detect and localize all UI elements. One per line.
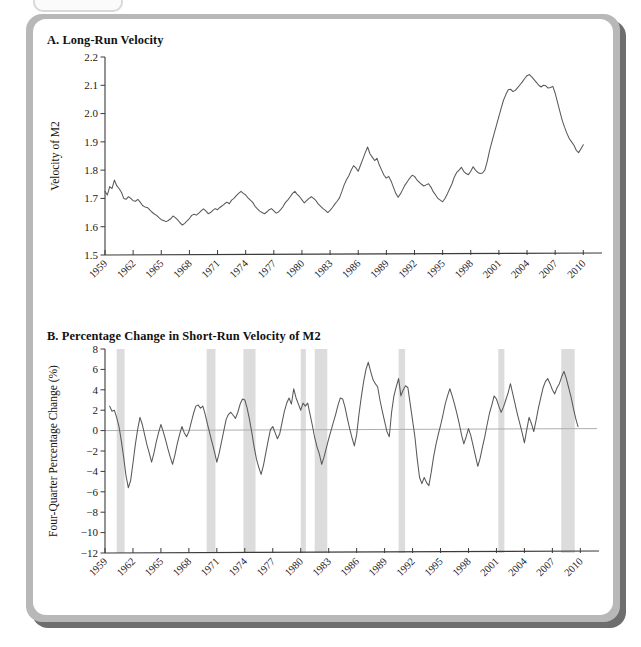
x-tick-label: 1959 xyxy=(87,258,110,281)
panel-b-percentage-change: B. Percentage Change in Short-Run Veloci… xyxy=(33,319,613,615)
x-tick-label: 2010 xyxy=(565,258,588,281)
recession-band xyxy=(301,349,306,553)
recession-band xyxy=(243,349,255,553)
recession-band xyxy=(399,349,406,553)
y-tick-label: 2.0 xyxy=(84,107,98,119)
x-tick-label: 2001 xyxy=(481,258,504,281)
x-tick-label: 2007 xyxy=(534,556,557,579)
y-tick-label: 1.7 xyxy=(84,192,98,204)
x-tick-label: 1980 xyxy=(284,258,307,281)
x-tick-label: 2001 xyxy=(478,556,501,579)
data-series-line xyxy=(110,362,578,487)
x-tick-label: 1977 xyxy=(256,258,279,281)
y-tick-label: −12 xyxy=(81,547,98,559)
y-tick-label: 2 xyxy=(93,404,99,416)
x-tick-label: 1965 xyxy=(143,258,166,281)
x-tick-label: 1986 xyxy=(338,556,361,579)
x-tick-label: 1995 xyxy=(424,258,447,281)
x-tick-label: 1983 xyxy=(310,556,333,579)
x-tick-label: 1992 xyxy=(394,556,417,579)
data-series-line xyxy=(105,75,583,225)
y-tick-label: 6 xyxy=(93,363,99,375)
x-tick-label: 1971 xyxy=(199,258,222,281)
y-tick-label: 4 xyxy=(93,384,99,396)
y-tick-label: −8 xyxy=(86,506,98,518)
recession-band xyxy=(498,349,504,553)
y-tick-label: −6 xyxy=(86,486,98,498)
x-tick-label: 2007 xyxy=(537,258,560,281)
page-artifact-top-box xyxy=(33,0,123,12)
y-tick-label: 0 xyxy=(93,424,99,436)
y-tick-label: 1.9 xyxy=(84,136,98,148)
y-tick-label: 2.1 xyxy=(84,79,98,91)
x-tick-label: 1998 xyxy=(453,258,476,281)
x-tick-label: 2004 xyxy=(509,257,532,280)
y-tick-label: 1.5 xyxy=(84,249,98,261)
y-axis-title: Velocity of M2 xyxy=(49,121,62,191)
x-tick-label: 1992 xyxy=(396,258,419,281)
x-tick-label: 1998 xyxy=(450,556,473,579)
panel-a-svg: 1.51.61.71.81.92.02.12.21959196219651968… xyxy=(33,19,613,319)
y-tick-label: 1.8 xyxy=(84,164,98,176)
x-tick-label: 2004 xyxy=(506,555,529,578)
x-tick-label: 1965 xyxy=(143,556,166,579)
x-tick-label: 1983 xyxy=(312,258,335,281)
y-tick-label: −10 xyxy=(81,526,99,538)
panel-b-svg: 86420−2−4−6−8−10−12195919621965196819711… xyxy=(33,319,613,615)
y-tick-label: 8 xyxy=(93,343,99,355)
recession-band xyxy=(117,349,125,553)
x-tick-label: 1974 xyxy=(227,555,250,578)
x-tick-label: 2010 xyxy=(562,556,585,579)
y-tick-label: −4 xyxy=(86,465,98,477)
x-tick-label: 1995 xyxy=(422,556,445,579)
y-tick-label: 2.2 xyxy=(84,51,98,63)
panel-a-long-run-velocity: A. Long-Run Velocity 1.51.61.71.81.92.02… xyxy=(33,19,613,319)
x-tick-label: 1962 xyxy=(115,556,138,579)
x-tick-label: 1977 xyxy=(255,556,278,579)
x-tick-label: 1986 xyxy=(340,258,363,281)
x-tick-label: 1989 xyxy=(368,258,391,281)
x-tick-label: 1971 xyxy=(199,556,222,579)
y-axis-title: Four-Quarter Percentage Change (%) xyxy=(47,365,60,537)
panel-a-plot: 1.51.61.71.81.92.02.12.21959196219651968… xyxy=(33,19,613,319)
recession-band xyxy=(561,349,575,553)
x-tick-label: 1968 xyxy=(171,258,194,281)
panel-b-plot: 86420−2−4−6−8−10−12195919621965196819711… xyxy=(33,319,613,615)
y-tick-label: −2 xyxy=(86,445,98,457)
x-tick-label: 1980 xyxy=(283,556,306,579)
x-tick-label: 1959 xyxy=(87,556,110,579)
figure-sheet: A. Long-Run Velocity 1.51.61.71.81.92.02… xyxy=(33,19,613,615)
x-tick-label: 1962 xyxy=(115,258,138,281)
y-tick-label: 1.6 xyxy=(84,221,98,233)
x-tick-label: 1989 xyxy=(366,556,389,579)
zero-reference-line xyxy=(105,429,597,431)
x-tick-label: 1974 xyxy=(227,257,250,280)
x-tick-label: 1968 xyxy=(171,556,194,579)
